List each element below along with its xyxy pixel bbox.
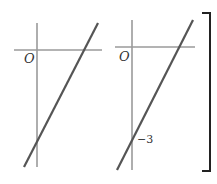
right-y-intercept-label: −3: [137, 133, 153, 146]
left-linear-function-line: [24, 23, 98, 167]
right-origin-label: O: [119, 49, 130, 64]
left-origin-label: O: [24, 51, 35, 66]
right-graph: O −3: [115, 20, 195, 170]
left-graph: O: [14, 23, 102, 167]
right-linear-function-line: [117, 20, 193, 170]
answer-bracket: [202, 13, 210, 171]
diagram-canvas: O O −3: [0, 0, 217, 184]
